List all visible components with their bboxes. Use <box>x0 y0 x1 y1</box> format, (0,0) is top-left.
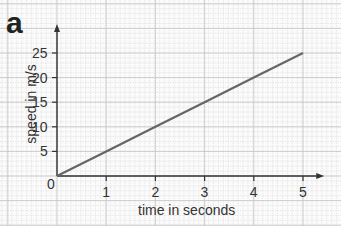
x-tick-label: 5 <box>299 185 307 199</box>
y-tick-label: 25 <box>32 46 48 60</box>
y-tick-label: 15 <box>32 95 48 109</box>
chart-figure: a speed in m/s time in seconds 012345510… <box>0 0 341 233</box>
y-tick-label: 20 <box>32 71 48 85</box>
panel-label: a <box>6 8 23 38</box>
x-tick-label: 1 <box>102 185 110 199</box>
x-tick-label: 0 <box>47 177 55 191</box>
x-tick-label: 2 <box>151 185 159 199</box>
plot-area <box>0 0 341 233</box>
x-tick-label: 3 <box>201 185 209 199</box>
x-axis-label: time in seconds <box>138 202 235 218</box>
x-tick-label: 4 <box>250 185 258 199</box>
speed-line <box>57 53 303 176</box>
y-tick-label: 5 <box>40 144 48 158</box>
y-tick-label: 10 <box>32 120 48 134</box>
